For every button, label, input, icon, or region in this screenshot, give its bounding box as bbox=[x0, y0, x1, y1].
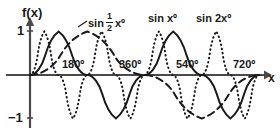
fraction-one-half: 1 2 bbox=[106, 12, 113, 33]
fraction-numerator: 1 bbox=[107, 12, 112, 22]
y-tick-label-positive-one: 1 bbox=[17, 24, 24, 37]
y-axis-label: f(x) bbox=[22, 6, 42, 19]
trig-graph-figure: f(x) x 1 −1 180º 360º 540º 720º sin 1 2 … bbox=[0, 0, 280, 140]
curve-label-sin-half-x: sin 1 2 xº bbox=[88, 13, 125, 34]
curve-label-half-prefix: sin bbox=[88, 18, 104, 29]
fraction-denominator: 2 bbox=[107, 23, 112, 33]
curve-label-sin-2x: sin 2xº bbox=[196, 13, 231, 24]
x-tick-label-180: 180º bbox=[62, 59, 84, 70]
x-tick-label-540: 540º bbox=[176, 59, 198, 70]
x-axis-label: x bbox=[268, 72, 275, 84]
plot-area bbox=[0, 0, 280, 140]
leader-line-sin-half-x bbox=[78, 21, 87, 27]
y-tick-label-negative-one: −1 bbox=[8, 111, 23, 124]
curve-label-sin-x: sin xº bbox=[148, 13, 177, 24]
x-tick-label-360: 360º bbox=[119, 59, 141, 70]
curve-label-half-suffix: xº bbox=[115, 18, 125, 29]
x-tick-label-720: 720º bbox=[233, 59, 255, 70]
